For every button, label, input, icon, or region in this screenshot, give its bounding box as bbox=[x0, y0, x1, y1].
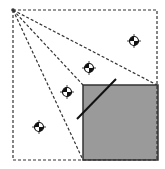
visibility-diagram bbox=[0, 0, 165, 169]
apex-point bbox=[11, 8, 15, 12]
obstacle-square bbox=[83, 85, 158, 160]
obstacle-layer bbox=[83, 85, 158, 160]
